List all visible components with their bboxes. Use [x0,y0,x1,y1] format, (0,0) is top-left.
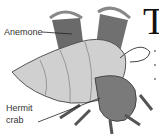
drop-cap: T [143,2,159,40]
hermit-label: Hermit [6,103,33,113]
crab-label: crab [6,115,24,125]
diagram-figure: Anemone Hermit crab T [0,0,159,136]
anemone-label: Anemone [4,27,43,37]
text-fragment [154,78,156,80]
hermit-crab-illustration [0,0,159,136]
text-fragment [154,50,156,52]
text-fragment [154,64,156,66]
